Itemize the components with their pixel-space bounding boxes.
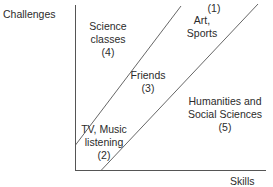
region-humanities: Humanities and Social Sciences (5) (183, 95, 267, 134)
region-label-line1: Art, (182, 14, 222, 27)
x-axis-label: Skills (230, 175, 255, 187)
region-label-line2: Social Sciences (183, 108, 267, 121)
region-label-line1: Friends (128, 69, 168, 82)
region-number: (3) (128, 82, 168, 95)
y-axis-label: Challenges (3, 8, 56, 20)
region-science-classes: Science classes (4) (86, 20, 130, 59)
region-tv-music: TV, Music listening (2) (79, 123, 129, 162)
region-label-line1: Humanities and (183, 95, 267, 108)
region-label-line2: Sports (182, 27, 222, 40)
region-friends: Friends (3) (128, 69, 168, 95)
region-number: (4) (86, 46, 130, 59)
region-label-line2: classes (86, 33, 130, 46)
region-number: (5) (183, 121, 267, 134)
region-label-line1: TV, Music (79, 123, 129, 136)
region-art-sports: Art, Sports (182, 14, 222, 40)
region-label-line1: Science (86, 20, 130, 33)
region-label-line2: listening (79, 136, 129, 149)
region-art-sports-number: (1) (202, 2, 226, 15)
region-number: (2) (79, 149, 129, 162)
